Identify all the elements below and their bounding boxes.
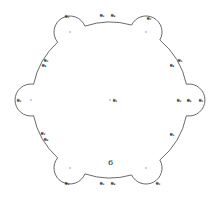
- edge-label: θ₃: [41, 131, 46, 136]
- lobe-label-right: θ₂: [199, 98, 204, 103]
- lobe-label-bottom-right: θ₂: [156, 181, 161, 186]
- lobe-label-top-left: θ₂: [65, 14, 70, 19]
- edge-label: θ₄: [111, 13, 116, 18]
- lobe-label-left: θ₂: [17, 98, 22, 103]
- edge-label: θ₃: [100, 181, 105, 186]
- number-label: 6: [108, 158, 113, 167]
- center-label: θ₁: [113, 98, 118, 103]
- edge-label: θ₄: [44, 137, 49, 142]
- center-points: [30, 31, 189, 168]
- edge-label: θ₄: [111, 181, 116, 186]
- edge-label: θ₄: [187, 98, 192, 103]
- edge-label: θ₄: [42, 63, 47, 68]
- edge-label: θ₃: [178, 58, 183, 63]
- lobe-center-dot-top-left: [69, 31, 70, 32]
- geometry-diagram: θ₁θ₂θ₂θ₂θ₂θ₂θ₂θ₃θ₄θ₃θ₄θ₃θ₄θ₃θ₄θ₃θ₄θ₃θ₃θ₄…: [0, 0, 220, 205]
- edge-label: θ₃: [177, 98, 182, 103]
- lobe-center-dot-bottom-left: [69, 167, 70, 168]
- edge-label: θ₄: [170, 63, 175, 68]
- edge-label: θ₃: [100, 13, 105, 18]
- lobe-center-dot-bottom-right: [145, 167, 146, 168]
- lobe-center-dot-top-right: [145, 31, 146, 32]
- lobe-label-bottom-left: θ₂: [65, 181, 70, 186]
- lobe-center-dot-left: [30, 99, 31, 100]
- edge-label: θ₃: [170, 132, 175, 137]
- center-dot: [109, 99, 110, 100]
- lobe-label-top-right: θ₂: [147, 16, 152, 21]
